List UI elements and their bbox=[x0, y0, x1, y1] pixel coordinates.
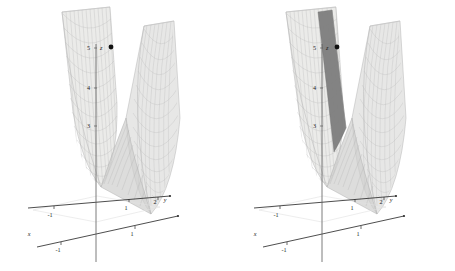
y-axis-label: y bbox=[163, 196, 167, 203]
y-tick-label-1: 1 bbox=[350, 204, 353, 211]
x-axis-line bbox=[263, 216, 404, 247]
surface-mesh-right bbox=[286, 7, 406, 214]
y-tick-label-1: 1 bbox=[124, 204, 127, 211]
x-axis-line bbox=[37, 216, 178, 247]
data-point-marker[interactable] bbox=[335, 45, 340, 50]
x-tick-label-neg1: -1 bbox=[281, 246, 286, 253]
y-tick-label-neg1: -1 bbox=[47, 211, 52, 218]
left-lobe bbox=[62, 7, 118, 187]
z-axis-label: z bbox=[99, 44, 103, 51]
x-tick-label-neg1: -1 bbox=[55, 246, 60, 253]
figure-container: -1 1 2 -1 1 5 4 3 z x y bbox=[0, 0, 455, 271]
surface-plot-left[interactable]: -1 1 2 -1 1 5 4 3 z x y bbox=[0, 0, 227, 271]
y-axis-label: y bbox=[389, 196, 393, 203]
z-tick-label-3: 3 bbox=[313, 122, 316, 129]
surface-mesh-left bbox=[62, 7, 180, 214]
x-axis-label: x bbox=[253, 230, 257, 237]
z-tick-label-5: 5 bbox=[87, 44, 90, 51]
y-tick-label-2: 2 bbox=[153, 198, 156, 205]
y-tick-label-neg1: -1 bbox=[273, 211, 278, 218]
z-tick-label-3: 3 bbox=[87, 122, 90, 129]
z-axis-label: z bbox=[325, 44, 329, 51]
x-axis-endpoint bbox=[403, 215, 405, 217]
x-axis-endpoint bbox=[177, 215, 179, 217]
y-axis-endpoint bbox=[395, 195, 397, 197]
x-tick-label-1: 1 bbox=[130, 230, 133, 237]
surface-plot-right[interactable]: -1 1 2 -1 1 5 4 3 z x y bbox=[228, 0, 455, 271]
x-tick-label-1: 1 bbox=[356, 230, 359, 237]
z-tick-label-4: 4 bbox=[87, 84, 90, 91]
surface-svg-left: -1 1 2 -1 1 5 4 3 z x y bbox=[0, 0, 227, 271]
surface-svg-right: -1 1 2 -1 1 5 4 3 z x y bbox=[228, 0, 455, 271]
z-tick-label-4: 4 bbox=[313, 84, 316, 91]
y-tick-label-2: 2 bbox=[379, 198, 382, 205]
y-axis-endpoint bbox=[169, 195, 171, 197]
z-tick-label-5: 5 bbox=[313, 44, 316, 51]
data-point-marker[interactable] bbox=[109, 45, 114, 50]
x-axis-label: x bbox=[27, 230, 31, 237]
